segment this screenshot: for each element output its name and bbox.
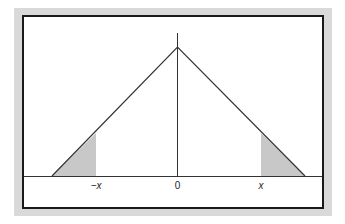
figure: −x 0 x	[0, 0, 345, 224]
tick-label-zero: 0	[175, 181, 181, 191]
tick-label-x: x	[259, 181, 264, 191]
plot-panel	[23, 16, 323, 208]
triangular-density-diagram	[0, 0, 345, 224]
tick-label-neg-x: −x	[91, 181, 102, 191]
